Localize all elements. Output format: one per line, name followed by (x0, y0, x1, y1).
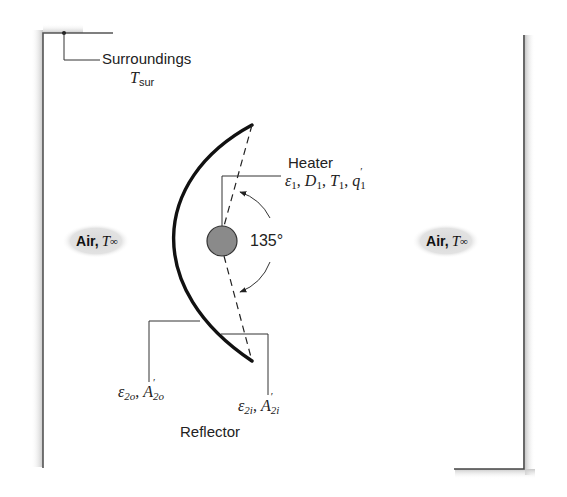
reflector-outer-properties: ε2o, A′2o (118, 383, 164, 402)
reflector-label: Reflector (180, 423, 240, 440)
surroundings-temp-symbol: T (130, 69, 139, 86)
air-right-text: Air, (426, 233, 449, 249)
reflector-outer-emissivity-sub: 2o (124, 390, 135, 402)
heater-temperature: T (330, 172, 339, 189)
angle-label: 135° (250, 232, 283, 250)
heater-cylinder (207, 226, 237, 256)
reflector-outer-area-prime: ′ (153, 376, 155, 388)
reflector-inner-properties: ε2i, A′2i (238, 397, 279, 416)
air-label-left: Air,T∞ (62, 231, 132, 251)
heater-heat-rate-sub: 1 (360, 179, 366, 191)
air-left-text: Air, (76, 233, 99, 249)
surroundings-temp-subscript: sur (139, 76, 154, 88)
heater-properties: ε1, D1, T1, q′1 (285, 172, 366, 191)
sep: , (322, 172, 326, 189)
air-label-right: Air,T∞ (412, 231, 482, 251)
reflector-inner-area: A (261, 397, 271, 414)
surroundings-wall-right (454, 35, 535, 479)
reflector-inner-area-prime: ′ (271, 390, 273, 402)
sep: , (344, 172, 348, 189)
surroundings-label: Surroundings (102, 50, 191, 67)
sep: , (253, 397, 257, 414)
reflector-outer-area: A (143, 383, 153, 400)
heater-label: Heater (288, 154, 333, 171)
angle-arc (240, 192, 270, 218)
sep: , (297, 172, 301, 189)
reflector-outer-area-sub: 2o (153, 390, 164, 402)
heater-heat-rate: q (352, 172, 360, 189)
reflector-inner-area-sub: 2i (271, 404, 280, 416)
diagram-canvas: Surroundings Tsur Heater ε1, D1, T1, q′1… (0, 0, 567, 497)
reflector-outer-leader (149, 321, 200, 382)
heater-heat-rate-prime: ′ (360, 165, 362, 177)
heater-diameter: D (305, 172, 317, 189)
angle-arc-lower (240, 262, 270, 292)
surroundings-leader (62, 31, 100, 60)
air-right-temp-subscript: ∞ (460, 235, 468, 247)
sep: , (135, 383, 139, 400)
reflector-inner-emissivity-sub: 2i (244, 404, 253, 416)
air-left-temp-symbol: T (102, 233, 110, 250)
air-left-temp-subscript: ∞ (110, 235, 118, 247)
surroundings-temp: Tsur (130, 69, 154, 88)
air-right-temp-symbol: T (452, 233, 460, 250)
